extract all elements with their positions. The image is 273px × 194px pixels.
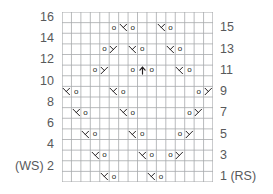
- chart-cell: o: [71, 86, 80, 97]
- yarn-over-icon: o: [197, 88, 201, 96]
- chart-cell: [138, 150, 147, 161]
- yarn-over-icon: o: [187, 66, 191, 74]
- ssk-icon: [185, 130, 194, 139]
- row-number-left: 4: [47, 135, 54, 154]
- k2tog-icon: [109, 87, 118, 96]
- chart-cell: [166, 44, 175, 55]
- k2tog-icon: [119, 23, 128, 32]
- yarn-over-icon: o: [112, 24, 116, 32]
- row-number-left: 16: [40, 8, 54, 27]
- k2tog-icon: [81, 130, 90, 139]
- chart-cell: o: [147, 150, 156, 161]
- yarn-over-icon: o: [168, 24, 172, 32]
- row-number-right: 13: [220, 40, 234, 59]
- k2tog-icon: [119, 108, 128, 117]
- yarn-over-icon: o: [102, 151, 106, 159]
- chart-cell: o: [128, 65, 137, 76]
- k2tog-icon: [175, 66, 184, 75]
- chart-cell: o: [194, 86, 203, 97]
- chart-cell: [204, 86, 213, 97]
- row-number-left: (WS) 2: [15, 157, 54, 176]
- yarn-over-icon: o: [131, 24, 135, 32]
- row-number-left: 12: [40, 50, 54, 69]
- chart-cell: o: [100, 150, 109, 161]
- yarn-over-icon: o: [74, 88, 78, 96]
- yarn-over-icon: o: [131, 109, 135, 117]
- ssk-icon: [194, 108, 203, 117]
- chart-cell: o: [109, 171, 118, 182]
- chart-cell: [185, 129, 194, 140]
- chart-cell: o: [185, 108, 194, 119]
- chart-cell: [175, 65, 184, 76]
- yarn-over-icon: o: [187, 109, 191, 117]
- yarn-over-icon: o: [93, 130, 97, 138]
- chart-cell: [119, 108, 128, 119]
- ssk-icon: [175, 151, 184, 160]
- k2tog-icon: [128, 130, 137, 139]
- chart-cell: o: [175, 129, 184, 140]
- yarn-over-icon: o: [159, 173, 163, 181]
- chart-cell: [119, 23, 128, 34]
- k2tog-icon: [100, 172, 109, 181]
- k2tog-icon: [72, 108, 81, 117]
- chart-cell: o: [138, 129, 147, 140]
- chart-cell: [128, 129, 137, 140]
- chart-cell: [90, 150, 99, 161]
- row-number-left: 8: [47, 93, 54, 112]
- yarn-over-icon: o: [121, 88, 125, 96]
- chart-cell: o: [100, 44, 109, 55]
- k2tog-icon: [91, 151, 100, 160]
- chart-cell: o: [185, 65, 194, 76]
- chart-cell: [109, 44, 118, 55]
- yarn-over-icon: o: [140, 130, 144, 138]
- yarn-over-icon: o: [149, 151, 153, 159]
- row-number-left: 10: [40, 72, 54, 91]
- yarn-over-icon: o: [149, 66, 153, 74]
- yarn-over-icon: o: [83, 109, 87, 117]
- chart-cell: o: [81, 108, 90, 119]
- chart-cell: [147, 171, 156, 182]
- k2tog-icon: [147, 172, 156, 181]
- row-number-right: 9: [220, 82, 227, 101]
- chart-cell: [109, 86, 118, 97]
- stitch-symbol-layer: oooooooooooooooooooooooo: [62, 12, 213, 182]
- chart-cell: [81, 129, 90, 140]
- yarn-over-icon: o: [178, 45, 182, 53]
- chart-cell: o: [175, 44, 184, 55]
- chart-cell: [100, 171, 109, 182]
- chart-cell: o: [147, 65, 156, 76]
- left-row-numbers: 16141210864(WS) 2: [0, 12, 60, 182]
- knitting-chart: 16141210864(WS) 2 oooooooooooooooooooooo…: [0, 0, 273, 194]
- yarn-over-icon: o: [140, 45, 144, 53]
- row-number-right: 5: [220, 125, 227, 144]
- chart-cell: [71, 108, 80, 119]
- chart-cell: o: [109, 23, 118, 34]
- chart-cell: o: [128, 108, 137, 119]
- k2tog-icon: [62, 87, 71, 96]
- chart-cell: o: [128, 23, 137, 34]
- ssk-icon: [109, 45, 118, 54]
- k2tog-icon: [128, 45, 137, 54]
- chart-grid: oooooooooooooooooooooooo: [62, 12, 213, 182]
- chart-cell: o: [156, 171, 165, 182]
- row-number-left: 14: [40, 29, 54, 48]
- chart-cell: o: [90, 129, 99, 140]
- row-number-right: 7: [220, 103, 227, 122]
- row-number-right: 1 (RS): [220, 167, 256, 186]
- yarn-over-icon: o: [102, 45, 106, 53]
- chart-cell: [100, 65, 109, 76]
- chart-cell: [194, 108, 203, 119]
- chart-cell: o: [166, 23, 175, 34]
- row-number-right: 15: [220, 18, 234, 37]
- chart-cell: o: [119, 86, 128, 97]
- yarn-over-icon: o: [112, 173, 116, 181]
- yarn-over-icon: o: [178, 130, 182, 138]
- chart-cell: o: [166, 150, 175, 161]
- chart-cell: o: [138, 44, 147, 55]
- k2tog-icon: [166, 45, 175, 54]
- yarn-over-icon: o: [168, 151, 172, 159]
- chart-cell: [128, 44, 137, 55]
- yarn-over-icon: o: [131, 66, 135, 74]
- chart-cell: o: [90, 65, 99, 76]
- central-double-decrease-icon: [138, 66, 147, 75]
